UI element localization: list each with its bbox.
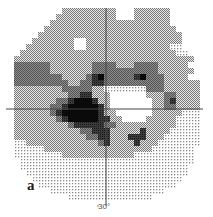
- field-cell: [188, 86, 194, 92]
- field-cell: [32, 38, 38, 44]
- field-cell: [38, 62, 44, 68]
- field-cell: [20, 74, 26, 80]
- field-cell: [170, 98, 176, 104]
- field-cell: [86, 182, 92, 188]
- field-cell: [170, 164, 176, 170]
- field-cell: [56, 62, 62, 68]
- field-cell: [86, 170, 92, 176]
- field-cell: [128, 128, 134, 134]
- field-cell: [20, 56, 26, 62]
- field-cell: [176, 170, 182, 176]
- field-cell: [164, 20, 170, 26]
- field-cell: [98, 68, 104, 74]
- field-cell: [86, 158, 92, 164]
- field-cell: [68, 80, 74, 86]
- field-cell: [32, 62, 38, 68]
- field-cell: [50, 38, 56, 44]
- field-cell: [44, 86, 50, 92]
- field-cell: [122, 32, 128, 38]
- field-cell: [152, 110, 158, 116]
- field-cell: [140, 98, 146, 104]
- field-cell: [56, 128, 62, 134]
- field-cell: [158, 158, 164, 164]
- field-cell: [140, 80, 146, 86]
- field-cell: [80, 188, 86, 194]
- field-cell: [122, 62, 128, 68]
- field-cell: [80, 128, 86, 134]
- field-cell: [158, 74, 164, 80]
- field-cell: [38, 140, 44, 146]
- field-cell: [140, 182, 146, 188]
- field-cell: [128, 44, 134, 50]
- field-cell: [134, 98, 140, 104]
- field-cell: [44, 182, 50, 188]
- field-cell: [44, 134, 50, 140]
- field-cell: [128, 152, 134, 158]
- field-cell: [122, 128, 128, 134]
- field-cell: [104, 128, 110, 134]
- field-cell: [80, 122, 86, 128]
- field-cell: [62, 164, 68, 170]
- field-cell: [56, 170, 62, 176]
- field-cell: [98, 182, 104, 188]
- field-cell: [50, 116, 56, 122]
- field-cell: [62, 38, 68, 44]
- field-cell: [122, 122, 128, 128]
- field-cell: [176, 32, 182, 38]
- field-cell: [158, 140, 164, 146]
- field-cell: [26, 74, 32, 80]
- field-cell: [32, 56, 38, 62]
- field-cell: [98, 32, 104, 38]
- field-cell: [128, 62, 134, 68]
- field-cell: [14, 140, 20, 146]
- field-cell: [26, 98, 32, 104]
- field-cell: [164, 134, 170, 140]
- field-cell: [98, 146, 104, 152]
- field-cell: [158, 164, 164, 170]
- field-cell: [74, 116, 80, 122]
- field-cell: [68, 146, 74, 152]
- field-cell: [56, 26, 62, 32]
- field-cell: [20, 152, 26, 158]
- field-cell: [74, 14, 80, 20]
- field-cell: [80, 170, 86, 176]
- field-cell: [74, 62, 80, 68]
- field-cell: [74, 68, 80, 74]
- field-cell: [44, 98, 50, 104]
- field-cell: [146, 68, 152, 74]
- field-cell: [194, 134, 200, 140]
- field-cell: [104, 164, 110, 170]
- field-cell: [68, 50, 74, 56]
- field-cell: [92, 50, 98, 56]
- field-cell: [50, 128, 56, 134]
- field-cell: [56, 152, 62, 158]
- field-cell: [188, 98, 194, 104]
- field-cell: [98, 128, 104, 134]
- field-cell: [182, 62, 188, 68]
- field-cell: [38, 176, 44, 182]
- field-cell: [158, 92, 164, 98]
- field-cell: [164, 32, 170, 38]
- field-cell: [20, 128, 26, 134]
- field-cell: [62, 170, 68, 176]
- field-cell: [164, 98, 170, 104]
- field-cell: [170, 80, 176, 86]
- field-cell: [92, 170, 98, 176]
- field-cell: [56, 158, 62, 164]
- field-cell: [68, 134, 74, 140]
- greyscale-cells: [14, 8, 200, 200]
- field-cell: [98, 152, 104, 158]
- field-cell: [86, 176, 92, 182]
- field-cell: [188, 110, 194, 116]
- field-cell: [98, 188, 104, 194]
- field-cell: [170, 38, 176, 44]
- field-cell: [176, 176, 182, 182]
- field-cell: [80, 68, 86, 74]
- field-cell: [98, 110, 104, 116]
- field-cell: [44, 38, 50, 44]
- field-cell: [110, 140, 116, 146]
- field-cell: [110, 170, 116, 176]
- field-cell: [74, 158, 80, 164]
- field-cell: [20, 122, 26, 128]
- field-cell: [86, 110, 92, 116]
